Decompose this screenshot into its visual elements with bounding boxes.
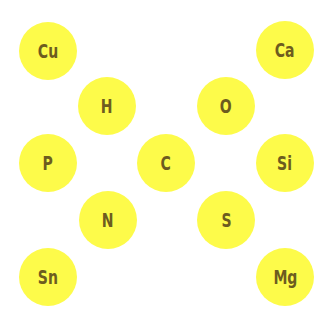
atom-ca: Ca — [256, 21, 314, 79]
atom-label: Si — [278, 151, 293, 175]
atom-label: Ca — [275, 38, 295, 62]
atom-s: S — [197, 191, 255, 249]
atom-label: C — [161, 151, 171, 175]
atom-label: S — [221, 208, 231, 232]
atom-h: H — [78, 77, 136, 135]
atom-label: N — [102, 208, 114, 232]
atom-sn: Sn — [19, 248, 77, 306]
atom-label: Sn — [38, 265, 58, 289]
atom-cu: Cu — [19, 22, 77, 80]
atom-c: C — [137, 134, 195, 192]
atom-label: O — [220, 94, 232, 118]
atom-n: N — [79, 191, 137, 249]
atom-p: P — [19, 134, 77, 192]
atom-label: Mg — [273, 265, 297, 289]
atom-mg: Mg — [256, 248, 314, 306]
atom-o: O — [197, 77, 255, 135]
atom-label: H — [101, 94, 113, 118]
atom-label: Cu — [38, 39, 58, 63]
atom-si: Si — [256, 134, 314, 192]
atom-label: P — [43, 151, 53, 175]
